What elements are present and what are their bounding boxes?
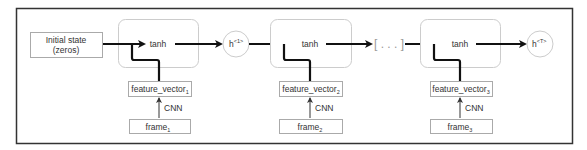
initial-state-box: Initial state (zeros) <box>31 33 103 58</box>
cnn-label-3: CNN <box>465 103 483 113</box>
initial-state-line1: Initial state <box>46 35 87 45</box>
feature-vector-label-3: feature_vector3 <box>432 84 489 95</box>
frame-label-2: frame2 <box>298 122 323 133</box>
tanh-label-3: tanh <box>452 39 469 49</box>
rnn-cell-3: tanh feature_vector3 CNN frame3 <box>421 20 501 134</box>
cnn-label-1: CNN <box>164 103 182 113</box>
hidden-state-T: h<T> <box>527 31 553 57</box>
rnn-cell-2: tanh feature_vector2 CNN frame2 <box>271 20 352 134</box>
rnn-diagram: Initial state (zeros) tanh feature_vecto… <box>0 0 587 150</box>
tanh-label-2: tanh <box>302 39 319 49</box>
cnn-label-2: CNN <box>315 103 333 113</box>
feature-vector-label-1: feature_vector1 <box>131 84 188 95</box>
hidden-state-1: h<1> <box>223 31 249 57</box>
frame-label-1: frame1 <box>146 122 171 133</box>
feature-vector-label-2: feature_vector2 <box>282 84 339 95</box>
ellipsis-bracket: [ . . . ] <box>374 37 404 51</box>
frame-label-3: frame3 <box>448 122 473 133</box>
rnn-cell-1: tanh feature_vector1 CNN frame1 <box>119 20 199 134</box>
initial-state-line2: (zeros) <box>53 45 80 55</box>
tanh-label-1: tanh <box>150 39 167 49</box>
